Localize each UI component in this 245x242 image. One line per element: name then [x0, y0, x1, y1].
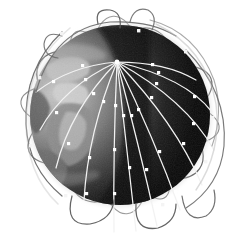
satellite-node: [81, 64, 84, 67]
satellite-node: [128, 166, 131, 169]
satellite-node: [182, 142, 185, 145]
satellite-node: [145, 168, 148, 171]
orbital-satellite: [29, 144, 32, 147]
satellite-node: [102, 100, 105, 103]
satellite-node: [114, 104, 117, 107]
orbital-satellite: [137, 29, 140, 32]
orbital-satellite: [64, 194, 67, 197]
satellite-node: [55, 111, 58, 114]
orbital-satellite: [161, 203, 164, 206]
satellite-node: [92, 92, 95, 95]
satellite-node: [52, 80, 55, 83]
satellite-node: [113, 192, 116, 195]
satellite-node: [130, 114, 133, 117]
satellite-node: [157, 71, 160, 74]
satellite-node: [122, 114, 125, 117]
satellite-node: [84, 78, 87, 81]
satellite-node: [192, 122, 195, 125]
satellite-node: [174, 190, 177, 193]
satellite-node: [88, 156, 91, 159]
satellite-node: [193, 95, 196, 98]
globe-grain: [30, 25, 210, 205]
constellation-canvas: [0, 0, 245, 242]
satellite-node: [158, 150, 161, 153]
orbital-satellite: [60, 32, 63, 35]
satellite-node: [67, 142, 70, 145]
satellite-node: [155, 82, 158, 85]
satellite-node: [113, 148, 116, 151]
pole-node: [115, 60, 120, 65]
satellite-node: [85, 192, 88, 195]
globe-constellation-illustration: Satellite constellation around Earth: [0, 0, 245, 242]
satellite-node: [150, 96, 153, 99]
orbital-satellite: [204, 160, 207, 163]
orbital-satellite: [211, 116, 214, 119]
satellite-node: [151, 63, 154, 66]
satellite-node: [137, 108, 140, 111]
orbital-satellite: [184, 50, 187, 53]
orbital-satellite: [38, 76, 41, 79]
orbit-arc-bottom-right-loop: [182, 190, 215, 218]
orbit-arc-bottom-mid-loop: [136, 204, 176, 229]
